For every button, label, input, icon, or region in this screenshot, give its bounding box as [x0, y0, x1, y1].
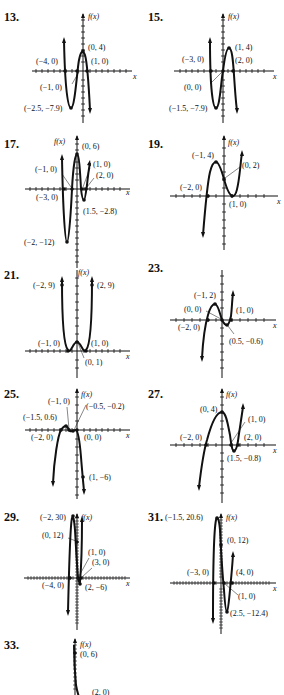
svg-text:(0, 0): (0, 0) — [184, 83, 202, 92]
svg-text:f(x): f(x) — [81, 513, 92, 522]
graph-31-plot: f(x) x (−1.5, 20.6) (0, 12) (−3, 0) (4, … — [142, 510, 284, 635]
svg-text:(1, 0): (1, 0) — [91, 57, 109, 66]
graph-31: 31. f(x) x (−1.5, 20.6) (0, 12) (−3, 0) … — [142, 510, 284, 635]
svg-text:(−2.5, −7.9): (−2.5, −7.9) — [24, 104, 63, 113]
svg-text:(3, 0): (3, 0) — [92, 558, 110, 567]
svg-text:(0, 1): (0, 1) — [85, 358, 103, 367]
graph-25-plot: f(x) x (−1, 0) (−0.5, −0.2) (−1.5, 0.6) … — [0, 385, 142, 510]
svg-text:(1, 0): (1, 0) — [248, 415, 266, 424]
svg-text:(1, 0): (1, 0) — [93, 160, 111, 169]
svg-text:(−4, 0): (−4, 0) — [36, 57, 58, 66]
svg-text:(1, 0): (1, 0) — [238, 592, 256, 601]
graph-21: 21. (−2, 9) (2, 9) (−1, 0) (1, 0) (0, 1)… — [0, 270, 142, 400]
graph-33: 33. f(x) (0, 6) (2, 0) — [0, 635, 142, 695]
svg-text:(−1.5, 20.6): (−1.5, 20.6) — [165, 513, 203, 522]
svg-text:(−2, 0): (−2, 0) — [178, 323, 200, 332]
svg-text:(2.5, −12.4): (2.5, −12.4) — [230, 609, 268, 618]
svg-text:(−2, 30): (−2, 30) — [40, 513, 66, 522]
svg-text:x: x — [125, 579, 130, 588]
graph-23-plot: (−1, 2) (0, 0) (1, 0) (−2, 0) (0.5, −0.6… — [142, 270, 284, 400]
svg-text:(−1, 0): (−1, 0) — [40, 83, 62, 92]
svg-text:(0, 6): (0, 6) — [82, 142, 100, 151]
svg-text:(2, 0): (2, 0) — [92, 688, 110, 695]
svg-text:(−1, 0): (−1, 0) — [48, 397, 70, 406]
graph-23: 23. (−1, 2) (0, 0) (1, 0) (−2, 0) (0.5, … — [142, 270, 284, 400]
svg-text:f(x): f(x) — [228, 12, 239, 21]
svg-text:(1, 0): (1, 0) — [91, 339, 109, 348]
graph-19: 19. f(x) x (−1, 4) (0, 2) (−2, 0) (1, 0) — [142, 130, 284, 270]
graph-15-plot: f(x) x (1, 4) (−3, 0) (2, 0) (0, 0) (−1.… — [142, 0, 284, 130]
svg-text:(−1.5, −7.9): (−1.5, −7.9) — [169, 104, 208, 113]
svg-text:(1.5, −2.8): (1.5, −2.8) — [83, 207, 117, 216]
svg-text:(1, 4): (1, 4) — [235, 43, 253, 52]
svg-text:(−2, 9): (−2, 9) — [33, 281, 55, 290]
svg-text:(−3, 0): (−3, 0) — [36, 193, 58, 202]
graph-17: 17. f(x) x (0, 6) (−1, 0) (1, 0) (2, 0) … — [0, 130, 142, 270]
svg-text:(2, −6): (2, −6) — [85, 583, 107, 592]
svg-text:(−1, 0): (−1, 0) — [38, 339, 60, 348]
graph-19-plot: f(x) x (−1, 4) (0, 2) (−2, 0) (1, 0) — [142, 130, 284, 270]
graph-29: 29. f(x) x (−2, 30) (0, 12) (1, 0) (3, 0… — [0, 510, 142, 635]
svg-text:x: x — [125, 188, 130, 197]
svg-text:x: x — [272, 72, 277, 81]
svg-text:(0, 0): (0, 0) — [84, 433, 102, 442]
svg-text:(1, 0): (1, 0) — [88, 548, 106, 557]
svg-text:(−1, 0): (−1, 0) — [35, 165, 57, 174]
svg-text:(1, −6): (1, −6) — [89, 473, 111, 482]
svg-text:(1, 0): (1, 0) — [229, 200, 247, 209]
svg-text:(−4, 0): (−4, 0) — [42, 581, 64, 590]
svg-text:x: x — [272, 584, 277, 593]
graph-33-plot: f(x) (0, 6) (2, 0) — [0, 635, 142, 695]
svg-text:(0, 12): (0, 12) — [227, 536, 249, 545]
svg-text:f(x): f(x) — [80, 640, 91, 649]
svg-text:(0, 4): (0, 4) — [88, 43, 106, 52]
graph-13-plot: f(x) x (0, 4) (−4, 0) (1, 0) (−1, 0) (−2… — [0, 0, 142, 130]
svg-text:(1, 0): (1, 0) — [236, 306, 254, 315]
svg-text:x: x — [276, 197, 281, 206]
svg-text:(2, 9): (2, 9) — [97, 281, 115, 290]
svg-text:(4, 0): (4, 0) — [236, 568, 254, 577]
svg-text:(−3, 0): (−3, 0) — [187, 568, 209, 577]
svg-text:(−2, 0): (−2, 0) — [180, 433, 202, 442]
svg-text:f(x): f(x) — [226, 390, 237, 399]
svg-text:(0, 2): (0, 2) — [242, 161, 260, 170]
graph-13: 13. f(x) x (0, 4) (−4, 0) (1, 0) (−1, 0)… — [0, 0, 142, 130]
svg-text:(−1, 2): (−1, 2) — [194, 291, 216, 300]
svg-text:f(x): f(x) — [54, 137, 65, 146]
graph-27-plot: f(x) x (0, 4) (1, 0) (−2, 0) (2, 0) (1.5… — [142, 385, 284, 510]
svg-text:(1.5, −0.8): (1.5, −0.8) — [227, 454, 261, 463]
svg-text:f(x): f(x) — [88, 12, 99, 21]
svg-text:x: x — [125, 431, 130, 440]
svg-text:(−2, 0): (−2, 0) — [180, 183, 202, 192]
svg-text:f(x): f(x) — [228, 138, 239, 147]
svg-text:x: x — [272, 321, 277, 330]
svg-text:(0, 0): (0, 0) — [184, 305, 202, 314]
svg-text:(0, 6): (0, 6) — [80, 650, 98, 659]
svg-text:(−0.5, −0.2): (−0.5, −0.2) — [86, 402, 125, 411]
svg-text:(−2, −12): (−2, −12) — [24, 238, 55, 247]
svg-text:(0, 4): (0, 4) — [200, 405, 218, 414]
graph-25: 25. f(x) x (−1, 0) (−0.5, −0.2) (−1.5, 0… — [0, 385, 142, 510]
svg-text:x: x — [132, 72, 137, 81]
svg-text:(2, 0): (2, 0) — [96, 171, 114, 180]
svg-text:f(x): f(x) — [81, 390, 92, 399]
graph-29-plot: f(x) x (−2, 30) (0, 12) (1, 0) (3, 0) (−… — [0, 510, 142, 635]
graph-21-ylabel: f(x) — [78, 261, 89, 279]
svg-text:(−1.5, 0.6): (−1.5, 0.6) — [23, 413, 57, 422]
svg-text:x: x — [125, 352, 130, 361]
svg-text:(0, 12): (0, 12) — [42, 531, 64, 540]
svg-text:(2, 0): (2, 0) — [235, 56, 253, 65]
svg-text:f(x): f(x) — [226, 513, 237, 522]
svg-text:(−3, 0): (−3, 0) — [182, 55, 204, 64]
svg-text:(−1, 4): (−1, 4) — [192, 151, 214, 160]
graph-17-plot: f(x) x (0, 6) (−1, 0) (1, 0) (2, 0) (−3,… — [0, 130, 142, 270]
svg-text:(−2, 0): (−2, 0) — [31, 433, 53, 442]
svg-text:x: x — [272, 446, 277, 455]
graph-27: 27. f(x) x (0, 4) (1, 0) (−2, 0) (2, 0) … — [142, 385, 284, 510]
graph-21-plot: (−2, 9) (2, 9) (−1, 0) (1, 0) (0, 1) x — [0, 270, 142, 400]
svg-text:(0.5, −0.6): (0.5, −0.6) — [229, 337, 263, 346]
graph-15: 15. f(x) x (1, 4) (−3, 0) (2, 0) (0, 0) … — [142, 0, 284, 130]
svg-text:(2, 0): (2, 0) — [244, 433, 262, 442]
